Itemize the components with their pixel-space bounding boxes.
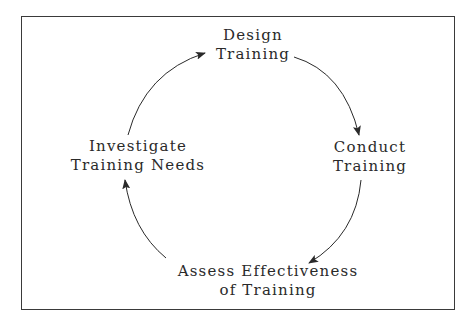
- node-investigate-training-needs: Investigate Training Needs: [58, 137, 218, 175]
- node-investigate-line-1: Investigate: [58, 137, 218, 156]
- node-conduct-line-1: Conduct: [322, 138, 418, 157]
- node-design-line-1: Design: [203, 26, 303, 45]
- node-design-line-2: Training: [203, 45, 303, 64]
- node-assess-line-1: Assess Effectiveness: [160, 262, 376, 281]
- node-conduct-line-2: Training: [322, 157, 418, 176]
- node-conduct-training: Conduct Training: [322, 138, 418, 176]
- arrow-conduct-to-assess: [309, 180, 361, 263]
- node-design-training: Design Training: [203, 26, 303, 64]
- node-investigate-line-2: Training Needs: [58, 156, 218, 175]
- node-assess-line-2: of Training: [160, 281, 376, 300]
- arrow-design-to-conduct: [294, 57, 359, 135]
- arrow-assess-to-investigate: [125, 180, 166, 258]
- arrow-investigate-to-design: [128, 53, 205, 135]
- node-assess-effectiveness: Assess Effectiveness of Training: [160, 262, 376, 300]
